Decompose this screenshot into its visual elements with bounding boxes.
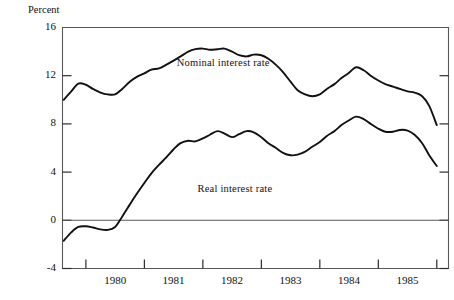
interest-rate-chart: Percent 1612840-4 1980198119821983198419… [0,0,454,300]
axis-ticks [63,76,449,269]
y-tick-label: 4 [24,165,56,177]
y-tick-label: -4 [24,261,56,273]
y-tick-label: 16 [24,20,56,32]
x-tick-label: 1984 [324,274,374,286]
series-label-1: Nominal interest rate [177,57,270,68]
y-tick-label: 12 [24,68,56,80]
series-line-2 [64,117,437,241]
x-tick-label: 1982 [207,274,257,286]
y-tick-label: 0 [24,213,56,225]
chart-plot-area [0,0,454,300]
x-tick-label: 1986 [441,274,454,286]
series-label-2: Real interest rate [198,183,273,194]
x-tick-label: 1981 [149,274,199,286]
y-tick-label: 8 [24,116,56,128]
x-tick-label: 1985 [383,274,433,286]
x-tick-label: 1980 [90,274,140,286]
x-tick-label: 1983 [266,274,316,286]
series-lines [64,48,437,240]
